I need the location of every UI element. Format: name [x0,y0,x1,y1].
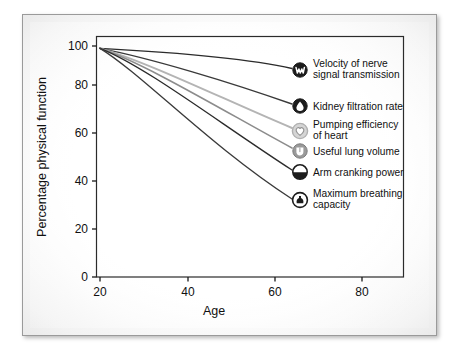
legend-label-lung-volume: Useful lung volume [313,146,400,157]
y-tick-80: 80 [75,78,89,92]
x-tick-20: 20 [93,285,107,299]
marker-pumping-efficiency-of-heart[interactable] [292,123,307,138]
legend-label-max-breathing-line2: capacity [313,199,351,210]
figure-page: 0 20 40 60 80 100 Percentage physical fu… [0,0,459,351]
marker-arm-cranking-power[interactable] [293,165,307,179]
x-tick-60: 60 [268,285,282,299]
legend-markers [292,63,307,208]
legend-labels: Velocity of nerve signal transmission Ki… [313,58,404,210]
legend-label-velocity-line1: Velocity of nerve [313,58,388,69]
legend-label-max-breathing-line1: Maximum breathing [313,188,403,199]
y-tick-100: 100 [68,39,88,53]
legend-label-velocity-line2: signal transmission [313,69,400,80]
x-axis: 20 40 60 80 [93,277,369,299]
y-tick-20: 20 [75,222,89,236]
y-tick-0: 0 [81,270,88,284]
series-lines [100,48,292,199]
line-chart: 0 20 40 60 80 100 Percentage physical fu… [0,0,459,351]
x-tick-80: 80 [355,285,369,299]
y-tick-60: 60 [75,126,89,140]
series-line-arm-cranking-power [100,48,292,170]
marker-velocity-of-nerve-signal-transmission[interactable] [293,63,307,77]
series-line-maximum-breathing-capacity [100,48,292,199]
x-axis-title: Age [203,304,225,318]
chart-canvas: 0 20 40 60 80 100 Percentage physical fu… [0,0,459,351]
marker-useful-lung-volume[interactable] [293,144,307,158]
y-axis: 0 20 40 60 80 100 [68,39,97,284]
legend-label-arm-cranking: Arm cranking power [313,167,404,178]
legend-label-pumping-line1: Pumping efficiency [313,119,399,130]
y-tick-40: 40 [75,174,89,188]
legend-label-pumping-line2: of heart [313,130,348,141]
marker-kidney-filtration-rate[interactable] [293,99,307,113]
marker-maximum-breathing-capacity[interactable] [293,193,308,208]
legend-label-kidney: Kidney filtration rate [313,101,403,112]
x-tick-40: 40 [181,285,195,299]
y-axis-title: Percentage physical function [35,77,49,237]
